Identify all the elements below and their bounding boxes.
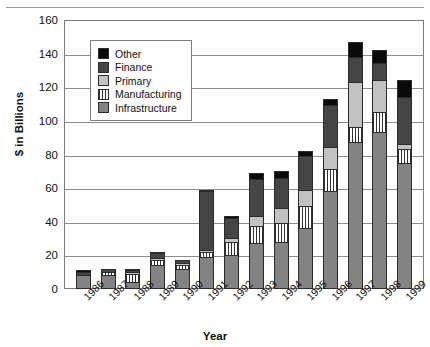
bar-segment-manufacturing [250,227,263,244]
x-tick-slot: 1997 [343,289,368,335]
stacked-bar[interactable] [274,171,289,289]
bar-segment-primary [349,83,362,128]
stacked-bar-chart: 020406080100120140160 $ in Billions 1986… [0,0,430,347]
bar-segment-other [324,100,337,107]
y-tick-label: 20 [6,249,58,261]
bar-segment-infrastructure [398,164,411,288]
x-tick-slot: 1992 [219,289,244,335]
bar-segment-manufacturing [126,275,139,283]
legend-item-other[interactable]: Other [98,48,182,60]
x-tick-slot: 1996 [318,289,343,335]
stacked-bar[interactable] [323,99,338,289]
bar-segment-other [275,172,288,179]
legend-item-label: Primary [115,75,151,87]
bar-segment-manufacturing [324,170,337,192]
bar-slot [244,20,269,289]
legend-item-label: Other [115,48,141,60]
stacked-bar[interactable] [249,173,264,289]
legend-item-primary[interactable]: Primary [98,75,182,87]
y-axis-tick-labels: 020406080100120140160 [0,20,58,289]
x-tick-slot: 1993 [244,289,269,335]
x-axis-tick-labels: 1986198719881989199019911992199319941995… [64,289,424,335]
bar-segment-other [373,51,386,64]
x-axis-title: Year [0,330,430,342]
bar-segment-finance [299,157,312,191]
legend-item-infrastructure[interactable]: Infrastructure [98,102,182,114]
stacked-bar[interactable] [397,80,412,289]
bar-segment-finance [398,98,411,145]
legend-item-label: Finance [115,61,152,73]
bar-segment-other [349,43,362,58]
stacked-bar[interactable] [348,42,363,289]
bar-segment-manufacturing [299,207,312,229]
bar-segment-manufacturing [349,128,362,143]
bar-slot [392,20,417,289]
bar-segment-manufacturing [398,150,411,163]
bar-slot [293,20,318,289]
x-tick-slot: 1989 [145,289,170,335]
bar-segment-primary [275,209,288,224]
swatch-other-icon [98,48,109,59]
bar-segment-primary [299,191,312,208]
swatch-primary-icon [98,75,109,86]
bar-segment-other [398,81,411,98]
stacked-bar[interactable] [298,151,313,289]
bar-segment-manufacturing [225,243,238,256]
y-tick-label: 40 [6,216,58,228]
x-tick-slot: 1988 [120,289,145,335]
y-tick-label: 140 [6,48,58,60]
legend-item-label: Manufacturing [115,88,182,100]
bar-segment-other [250,174,263,181]
stacked-bar[interactable] [224,216,239,289]
stacked-bar[interactable] [199,190,214,289]
stacked-bar[interactable] [372,50,387,289]
bar-slot [219,20,244,289]
x-tick-slot: 1986 [71,289,96,335]
bar-segment-finance [275,179,288,209]
legend-item-label: Infrastructure [115,102,177,114]
bar-segment-infrastructure [275,243,288,288]
y-axis-title: $ in Billions [13,59,25,189]
bar-segment-finance [324,106,337,148]
x-tick-slot: 1987 [96,289,121,335]
bar-segment-manufacturing [373,113,386,133]
legend-item-finance[interactable]: Finance [98,61,182,73]
x-tick-slot: 1998 [368,289,393,335]
chart-legend: OtherFinancePrimaryManufacturingInfrastr… [90,40,192,121]
bar-segment-infrastructure [349,143,362,288]
bar-segment-primary [324,148,337,170]
bar-segment-primary [373,81,386,113]
bar-slot [343,20,368,289]
bar-segment-finance [373,64,386,81]
y-tick-label: 0 [6,283,58,295]
bar-segment-manufacturing [275,224,288,242]
bar-segment-finance [225,219,238,239]
x-tick-slot: 1995 [293,289,318,335]
swatch-infrastructure-icon [98,102,109,113]
swatch-finance-icon [98,62,109,73]
bar-slot [269,20,294,289]
swatch-manufacturing-icon [98,89,109,100]
legend-item-manufacturing[interactable]: Manufacturing [98,88,182,100]
x-tick-slot: 1999 [392,289,417,335]
bar-segment-infrastructure [324,192,337,288]
bar-segment-finance [250,180,263,217]
bar-segment-infrastructure [299,229,312,288]
bar-segment-finance [200,192,213,251]
bar-slot [368,20,393,289]
x-tick-slot: 1994 [269,289,294,335]
bar-segment-infrastructure [250,244,263,288]
bar-slot [318,20,343,289]
x-tick-slot: 1991 [195,289,220,335]
bar-segment-finance [349,58,362,83]
y-tick-label: 160 [6,14,58,26]
bar-segment-primary [250,217,263,227]
bar-segment-infrastructure [373,133,386,288]
x-tick-slot: 1990 [170,289,195,335]
bar-slot [195,20,220,289]
